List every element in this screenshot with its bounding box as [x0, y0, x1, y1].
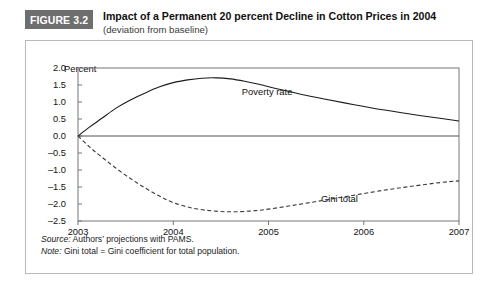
figure-title: Impact of a Permanent 20 percent Decline…: [103, 10, 473, 23]
source-label: Source:: [41, 234, 71, 244]
definition-note: Note: Gini total = Gini coefficient for …: [41, 246, 239, 257]
source-note: Source: Authors’ projections with PAMS.: [41, 234, 194, 245]
plot-frame: [78, 68, 459, 221]
figure-3-2-root: FIGURE 3.2 Impact of a Permanent 20 perc…: [0, 0, 498, 291]
figure-number-badge: FIGURE 3.2: [25, 10, 93, 29]
source-text: Authors’ projections with PAMS.: [71, 234, 194, 244]
series-line-gini-total: [78, 136, 459, 212]
note-label: Note:: [41, 246, 62, 256]
series-line-poverty-rate: [78, 78, 459, 136]
figure-subtitle: (deviation from baseline): [103, 24, 473, 36]
figure-header: FIGURE 3.2 Impact of a Permanent 20 perc…: [25, 10, 473, 42]
figure-panel: Percent 2.01.51.00.50.0–0.5–1.0–1.5–2.0–…: [25, 40, 473, 274]
note-text: Gini total = Gini coefficient for total …: [62, 246, 240, 256]
